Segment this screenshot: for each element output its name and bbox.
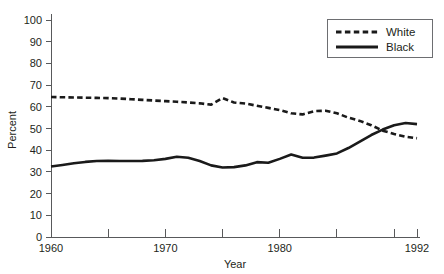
- y-tick-label: 40: [30, 144, 42, 156]
- y-tick-label: 80: [30, 57, 42, 69]
- y-axis-group: 0102030405060708090100 Percent: [6, 14, 51, 243]
- chart-canvas: 0102030405060708090100 Percent 196019701…: [0, 0, 444, 274]
- y-tick-label: 30: [30, 166, 42, 178]
- series-line-white: [51, 97, 417, 138]
- data-series-group: [51, 97, 417, 168]
- y-tick-label: 50: [30, 123, 42, 135]
- legend-label-black: Black: [386, 41, 414, 53]
- line-chart: 0102030405060708090100 Percent 196019701…: [0, 0, 444, 274]
- x-tick-label: 1960: [39, 242, 63, 254]
- y-axis-tick-labels: 0102030405060708090100: [24, 14, 42, 243]
- legend-box: [328, 20, 433, 58]
- chart-legend: White Black: [328, 20, 433, 58]
- x-tick-label: 1992: [405, 242, 429, 254]
- y-tick-label: 70: [30, 79, 42, 91]
- y-tick-label: 10: [30, 209, 42, 221]
- y-axis-title: Percent: [6, 111, 18, 149]
- legend-label-white: White: [386, 26, 415, 38]
- y-axis-ticks: [46, 20, 51, 237]
- series-line-black: [51, 123, 417, 167]
- x-axis-ticks: [51, 229, 417, 237]
- x-axis-group: 1960197019801992 Year: [39, 229, 429, 270]
- y-tick-label: 20: [30, 188, 42, 200]
- x-axis-title: Year: [224, 258, 247, 270]
- x-tick-label: 1970: [153, 242, 177, 254]
- y-tick-label: 100: [24, 14, 42, 26]
- x-axis-tick-labels: 1960197019801992: [39, 242, 429, 254]
- y-tick-label: 60: [30, 101, 42, 113]
- x-tick-label: 1980: [268, 242, 292, 254]
- y-tick-label: 90: [30, 36, 42, 48]
